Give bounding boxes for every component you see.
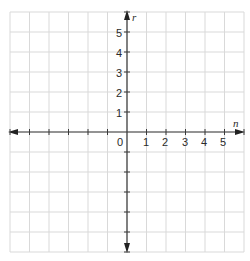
origin-label: 0 <box>117 136 123 148</box>
y-tick-label-2: 2 <box>116 87 122 99</box>
y-tick-label-1: 1 <box>116 107 122 119</box>
y-tick-label-4: 4 <box>116 47 122 59</box>
x-tick-label-2: 2 <box>162 136 168 148</box>
x-tick-label-4: 4 <box>201 136 207 148</box>
y-axis-label: r <box>132 11 137 23</box>
y-tick-label-3: 3 <box>116 67 122 79</box>
y-tick-label-5: 5 <box>116 27 122 39</box>
x-tick-label-3: 3 <box>182 136 188 148</box>
x-tick-label-5: 5 <box>220 136 226 148</box>
x-tick-label-1: 1 <box>143 136 149 148</box>
coordinate-grid: 0 1 2 3 4 5 1 2 3 4 5 n r <box>0 0 250 261</box>
x-axis-label: n <box>233 117 239 129</box>
axes <box>8 10 245 253</box>
